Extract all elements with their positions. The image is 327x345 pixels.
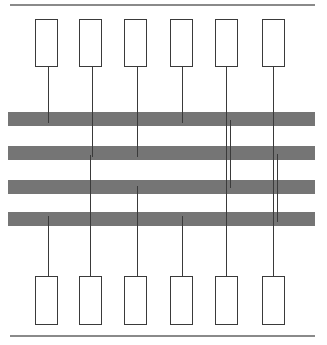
bottom-rule (10, 335, 315, 337)
schematic-diagram (0, 0, 327, 345)
top-box-4[interactable] (170, 19, 193, 67)
band-3 (8, 180, 315, 194)
top-box-6[interactable] (262, 19, 285, 67)
top-box-3[interactable] (124, 19, 147, 67)
band-1 (8, 112, 315, 126)
band-4 (8, 212, 315, 226)
top-box-5[interactable] (215, 19, 238, 67)
band-2 (8, 146, 315, 160)
link-stub-2 (90, 155, 91, 188)
link-top-1 (48, 67, 49, 123)
bottom-box-2[interactable] (79, 276, 102, 325)
link-bottom-2 (90, 186, 91, 276)
link-bottom-3 (137, 186, 138, 276)
bottom-box-5[interactable] (215, 276, 238, 325)
link-bottom-1 (48, 216, 49, 276)
top-box-2[interactable] (79, 19, 102, 67)
link-stub-6 (277, 154, 278, 222)
bottom-box-6[interactable] (262, 276, 285, 325)
bottom-box-3[interactable] (124, 276, 147, 325)
top-box-1[interactable] (35, 19, 58, 67)
link-top-3 (137, 67, 138, 157)
link-through-5 (226, 67, 227, 276)
bottom-box-4[interactable] (170, 276, 193, 325)
link-top-4 (182, 67, 183, 123)
link-stub-5 (230, 120, 231, 188)
link-bottom-4 (182, 216, 183, 276)
link-top-2 (92, 67, 93, 157)
link-through-6 (273, 67, 274, 276)
bottom-box-1[interactable] (35, 276, 58, 325)
top-rule (10, 4, 315, 6)
